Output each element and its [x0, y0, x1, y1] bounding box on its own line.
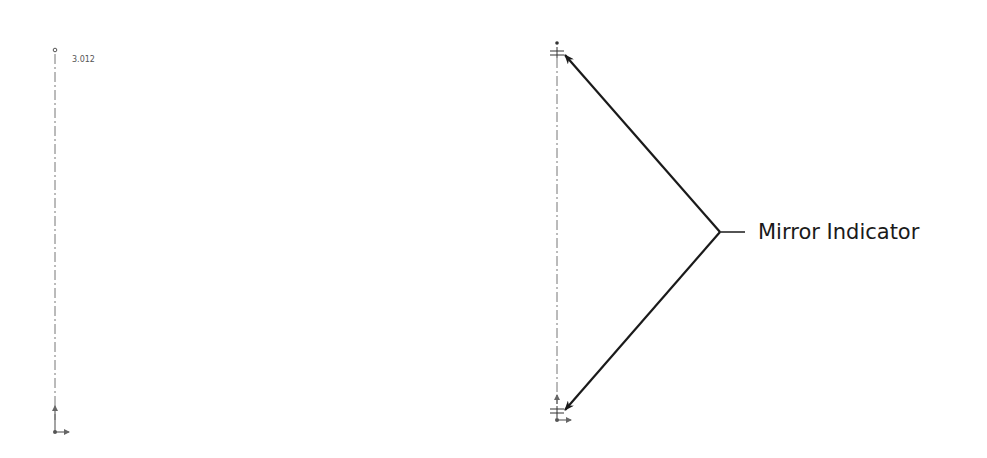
left-sketch: 3.012 — [53, 48, 95, 434]
mirror-indicator-callout: Mirror Indicator — [565, 55, 920, 410]
callout-label: Mirror Indicator — [758, 220, 920, 244]
callout-arrow-bottom — [565, 232, 720, 410]
centerline-top-endpoint[interactable] — [53, 48, 57, 52]
centerline-top-point[interactable] — [555, 41, 559, 45]
origin-icon — [53, 406, 69, 434]
mirror-symbol-bottom[interactable] — [550, 406, 564, 418]
sketch-canvas: 3.012 M — [0, 0, 987, 458]
right-sketch — [550, 41, 571, 422]
callout-arrow-top — [565, 55, 720, 232]
mirror-symbol-top[interactable] — [550, 47, 564, 58]
dimension-label[interactable]: 3.012 — [72, 55, 95, 64]
